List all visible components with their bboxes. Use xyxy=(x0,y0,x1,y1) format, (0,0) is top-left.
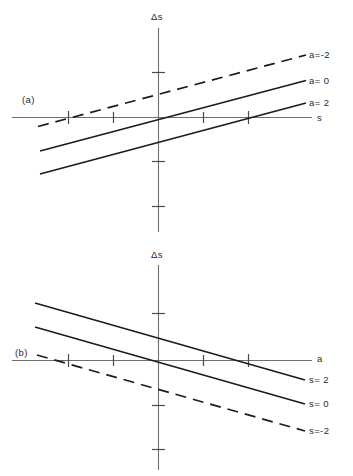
panel-a-series-label-middle: a= 0 xyxy=(309,76,329,86)
panel-b-y-axis-label: Δs xyxy=(151,250,163,260)
panel-a-x-axis-label: s xyxy=(317,113,322,123)
panel-b-series-label-middle: s= 0 xyxy=(309,399,329,409)
panel-b-label: (b) xyxy=(15,348,28,358)
panel-a-plot xyxy=(0,0,353,238)
panel-a-label: (a) xyxy=(22,95,35,105)
figure-container: Δs s (a) a=-2 a= 0 a= 2 Δs a (b) s= 2 s=… xyxy=(0,0,353,476)
panel-b-series-label-top: s= 2 xyxy=(309,375,329,385)
panel-a-series-a-2 xyxy=(40,103,306,174)
panel-b-series-s-2 xyxy=(35,303,305,380)
panel-b-x-axis-label: a xyxy=(317,354,323,364)
panel-a-series-label-top: a=-2 xyxy=(309,50,330,60)
panel-a-series-label-bottom: a= 2 xyxy=(309,98,329,108)
panel-b-plot xyxy=(0,238,353,476)
panel-b-series-label-bottom: s=-2 xyxy=(309,426,329,436)
panel-a-y-axis-label: Δs xyxy=(151,12,163,22)
